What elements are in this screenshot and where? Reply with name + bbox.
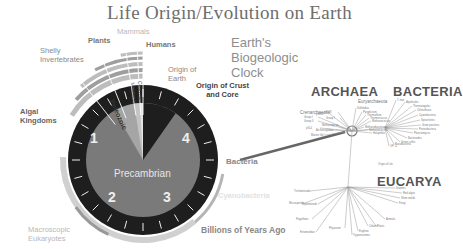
tree-leaf-label: Proteobacteria xyxy=(419,128,436,131)
tree-branch xyxy=(348,187,398,203)
origin-of-earth-label: Origin of Earth xyxy=(168,65,196,83)
shelly-line: Shelly xyxy=(40,46,84,55)
tree-branch xyxy=(348,131,352,187)
tree-leaf-label: Group I xyxy=(304,116,313,119)
eucarya-label: EUCARYA xyxy=(377,174,442,189)
tree-leaf-label: Flagellates xyxy=(296,218,309,221)
bacteria-domain-label: BACTERIA xyxy=(393,84,463,99)
origin-of-crust-line1: Origin of Crust xyxy=(196,81,249,90)
cyanobacteria-label: Cyanobacteria xyxy=(218,191,270,200)
hour-3: 3 xyxy=(163,190,171,204)
tree-branch xyxy=(316,187,348,232)
tree-leaf-label: Gram positives xyxy=(422,124,439,127)
life-arc-band xyxy=(121,53,143,55)
tree-leaf-label: Planctomyces xyxy=(414,132,430,135)
tree-leaf-label: Chloroflexus xyxy=(417,109,431,112)
algal-kingdoms-label: Algal Kingdoms xyxy=(20,107,57,125)
tree-leaf-label: Archaeoglobus xyxy=(316,129,333,132)
invertebrates-line: Invertebrates xyxy=(40,55,84,64)
tree-leaf-label: Flavobacteria xyxy=(395,143,411,146)
tree-leaf-label: Aquificales xyxy=(406,101,419,104)
tree-leaf-label: Entamoebae xyxy=(300,231,315,234)
tree-leaf-label: Spirochetes xyxy=(421,119,435,122)
tree-branch xyxy=(352,118,369,131)
tree-leaf-label: pSL78 xyxy=(324,111,332,114)
eukaryotes-line: Eukaryotes xyxy=(28,234,70,243)
bacteria-pointer-arrow xyxy=(240,132,345,160)
tree-leaf-label: Marine Gp I xyxy=(311,134,325,137)
hour-2: 2 xyxy=(108,190,116,204)
tree-branch xyxy=(312,187,348,219)
shelly-invertebrates-label: Shelly Invertebrates xyxy=(40,46,84,64)
tree-leaf-label: pSL50 xyxy=(316,113,324,116)
origin-of-crust-label: Origin of Crust and Core xyxy=(196,81,249,99)
tree-leaf-label: Trypanosomes xyxy=(353,234,370,237)
tree-leaf-label: Animals xyxy=(386,218,395,221)
clock-heading: Earth's Biogeologic Clock xyxy=(231,35,298,80)
tree-leaf-label: Sulfolobus xyxy=(357,107,369,110)
tree-branch xyxy=(348,187,352,235)
hour-4: 4 xyxy=(182,131,190,145)
tree-branch xyxy=(345,187,348,228)
tree-leaf-label: Trichomonads xyxy=(294,190,310,193)
tree-branch xyxy=(385,125,421,128)
tree-leaf-label: Thermotogales xyxy=(413,105,430,108)
tree-leaf-label: Red algae xyxy=(403,192,415,195)
clock-heading-line3: Clock xyxy=(231,65,298,80)
tree-leaf-label: Diplomonads xyxy=(302,203,317,206)
tree-leaf-label: Methanopyrus xyxy=(322,124,338,127)
tree-leaf-label: OP 11 xyxy=(390,145,397,148)
macroscopic-line: Macroscopic xyxy=(28,225,70,234)
cenozoic-label: Cenozoic xyxy=(135,81,144,102)
clock-heading-line2: Biogeologic xyxy=(231,50,298,65)
origin-of-earth-line2: Earth xyxy=(168,74,196,83)
tree-leaf-label: Euglena xyxy=(359,230,369,233)
origin-of-earth-line1: Origin of xyxy=(168,65,196,74)
origin-of-life-label: Origin of Life xyxy=(378,163,393,166)
tree-branch xyxy=(385,128,407,138)
origin-of-crust-line2: and Core xyxy=(196,90,249,99)
tree-leaf-label: Halophiles xyxy=(373,132,385,135)
billions-of-years-caption: Billions of Years Ago xyxy=(201,226,286,235)
tree-leaf-label: Slime molds xyxy=(401,197,415,200)
macroscopic-eukaryotes-label: Macroscopic Eukaryotes xyxy=(28,225,70,243)
euryarchaeota-label: Euryarchaeota xyxy=(358,97,387,106)
tree-leaf-label: pSL4 xyxy=(306,127,312,130)
phylogenetic-tree xyxy=(305,100,421,235)
plants-label: Plants xyxy=(88,36,111,45)
tree-leaf-label: Physarum xyxy=(329,227,341,230)
tree-leaf-label: Fungi xyxy=(399,202,406,205)
tree-leaf-label: T. mar xyxy=(397,99,404,102)
tree-leaf-label: Plants xyxy=(377,225,384,228)
tree-leaf-label: Group II xyxy=(304,120,313,123)
precambrian-label: Precambrian xyxy=(114,168,171,179)
kingdoms-line: Kingdoms xyxy=(20,116,57,125)
mammals-label: Mammals xyxy=(117,27,150,36)
tree-branch xyxy=(348,187,385,219)
tree-leaf-label: Diatoms xyxy=(396,187,406,190)
clock-heading-line1: Earth's xyxy=(231,35,298,50)
tree-leaf-label: Bacteroides xyxy=(408,137,422,140)
tree-leaf-label: Cyanobacteria xyxy=(419,114,436,117)
humans-label: Humans xyxy=(146,40,176,49)
tree-leaf-label: Group I xyxy=(326,117,335,120)
bacteria-label: Bacteria xyxy=(226,157,258,166)
algal-line: Algal xyxy=(20,107,57,116)
hour-1: 1 xyxy=(90,131,98,145)
tree-leaf-label: Methanococcus xyxy=(372,120,390,123)
